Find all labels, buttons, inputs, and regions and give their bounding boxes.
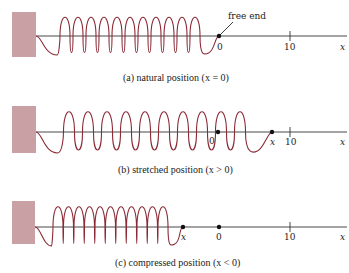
end-position-label: x (181, 232, 186, 242)
spring-diagram: free end 0 10 x (a) natural position (x … (0, 0, 349, 273)
axis-label-x: x (340, 232, 345, 242)
axis-label-x: x (340, 42, 345, 52)
free-end-label: free end (228, 11, 266, 21)
tick-10-label: 10 (285, 137, 297, 147)
origin-label: 0 (217, 42, 223, 52)
annotation-leader-line (220, 22, 233, 35)
wall-block (12, 106, 36, 153)
panel-b: 0 x 10 x (b) stretched position (x > 0) (12, 106, 347, 176)
free-end-dot (270, 130, 274, 134)
panel-a: free end 0 10 x (a) natural position (x … (12, 11, 347, 84)
wall-block (12, 12, 36, 57)
origin-label: 0 (209, 136, 215, 146)
axis-label-x: x (340, 137, 345, 147)
panel-c: x 0 10 x (c) compressed position (x < 0) (12, 201, 347, 269)
tick-10-label: 10 (284, 42, 296, 52)
caption-a: (a) natural position (x = 0) (123, 72, 229, 84)
caption-c: (c) compressed position (x < 0) (115, 257, 240, 269)
origin-dot (217, 225, 221, 229)
spring-coil (35, 207, 183, 246)
end-position-label: x (270, 137, 275, 147)
tick-10-label: 10 (284, 232, 296, 242)
caption-b: (b) stretched position (x > 0) (118, 164, 233, 176)
free-end-dot (181, 225, 185, 229)
origin-label: 0 (216, 232, 222, 242)
origin-dot (216, 130, 220, 134)
wall-block (12, 201, 35, 244)
